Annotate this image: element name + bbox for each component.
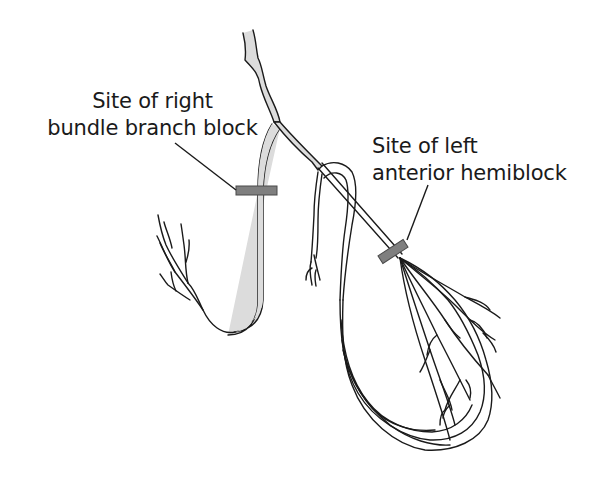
lah-label: Site of left anterior hemiblock	[372, 133, 567, 187]
septal-branch-inner	[316, 174, 322, 258]
lah-label-line2: anterior hemiblock	[372, 160, 567, 187]
lah-leader-line	[407, 185, 428, 240]
rbbb-label-line1: Site of right	[35, 88, 270, 115]
left-bundle-branch	[274, 122, 322, 170]
right-bundle-branch	[228, 124, 280, 335]
right-bundle-branch-block-marker	[236, 186, 277, 195]
septal-purkinje-fibres	[306, 255, 320, 286]
rbbb-label: Site of right bundle branch block	[35, 88, 270, 142]
rbbb-leader-line	[175, 143, 236, 190]
right-bundle-terminal	[188, 283, 235, 333]
lah-label-line1: Site of left	[372, 133, 567, 160]
conduction-system-diagram	[0, 0, 611, 495]
left-anterior-purkinje-fibres	[400, 258, 500, 440]
rbbb-label-line2: bundle branch block	[35, 115, 270, 142]
